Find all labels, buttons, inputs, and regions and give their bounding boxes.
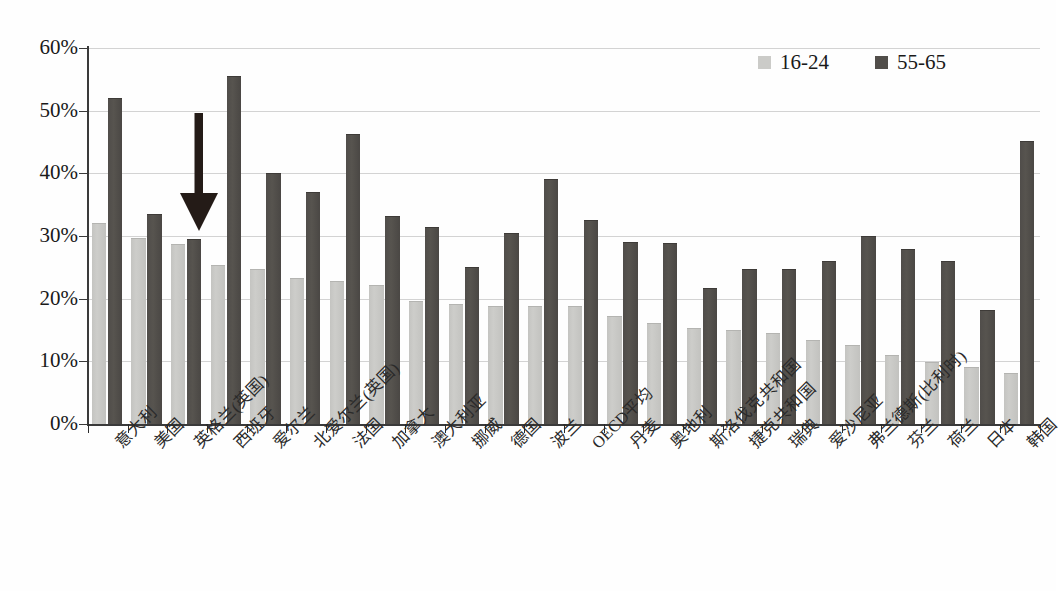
bar-16-24 xyxy=(131,238,146,424)
bar-group xyxy=(1004,48,1035,424)
bar-group xyxy=(171,48,202,424)
bar-group xyxy=(647,48,678,424)
bar-55-65 xyxy=(941,261,956,424)
bar-group xyxy=(607,48,638,424)
y-tick-label: 30% xyxy=(0,225,78,246)
bar-group xyxy=(449,48,480,424)
bar-group xyxy=(845,48,876,424)
plot-area xyxy=(88,48,1040,424)
bar-group xyxy=(409,48,440,424)
bar-55-65 xyxy=(544,179,559,424)
legend-label-55-65: 55-65 xyxy=(897,52,946,73)
bar-55-65 xyxy=(187,239,202,424)
bar-group xyxy=(726,48,757,424)
bar-16-24 xyxy=(528,306,543,424)
y-tick-label: 50% xyxy=(0,100,78,121)
bar-55-65 xyxy=(108,98,123,424)
bar-group xyxy=(488,48,519,424)
legend-item-old: 55-65 xyxy=(875,52,946,73)
y-tick-label: 20% xyxy=(0,288,78,309)
bar-group xyxy=(885,48,916,424)
y-axis-line xyxy=(87,46,89,426)
bar-55-65 xyxy=(663,243,678,424)
bar-16-24 xyxy=(488,306,503,424)
bar-16-24 xyxy=(92,223,107,424)
y-tick-label: 60% xyxy=(0,37,78,58)
bar-group xyxy=(687,48,718,424)
legend-label-16-24: 16-24 xyxy=(780,52,829,73)
legend-item-young: 16-24 xyxy=(758,52,829,73)
bar-55-65 xyxy=(822,261,837,424)
y-tick-label: 40% xyxy=(0,162,78,183)
bar-group xyxy=(92,48,123,424)
bar-55-65 xyxy=(1020,141,1035,424)
bar-55-65 xyxy=(584,220,599,424)
bar-55-65 xyxy=(346,134,361,424)
bar-group xyxy=(131,48,162,424)
bar-16-24 xyxy=(171,244,186,424)
bar-group xyxy=(528,48,559,424)
legend-swatch-icon-55-65 xyxy=(875,56,888,69)
bar-55-65 xyxy=(504,233,519,425)
bar-16-24 xyxy=(568,306,583,424)
bar-55-65 xyxy=(425,227,440,424)
legend-swatch-icon-16-24 xyxy=(758,56,771,69)
bar-group xyxy=(568,48,599,424)
chart-legend: 16-24 55-65 xyxy=(758,52,946,73)
bar-group xyxy=(211,48,242,424)
x-axis-category-labels: 意大利美国英格兰(英国)西班牙爱尔兰北爱尔兰(英国)法国加拿大澳大利亚挪威德国波… xyxy=(0,424,1056,591)
bar-55-65 xyxy=(385,216,400,424)
bar-55-65 xyxy=(306,192,321,424)
bar-16-24 xyxy=(647,323,662,424)
y-tick-label: 10% xyxy=(0,350,78,371)
bar-55-65 xyxy=(147,214,162,424)
bar-55-65 xyxy=(227,76,242,424)
bar-group xyxy=(330,48,361,424)
annotation-down-arrow-icon xyxy=(178,113,220,233)
bar-group xyxy=(964,48,995,424)
bar-group xyxy=(806,48,837,424)
bar-55-65 xyxy=(980,310,995,424)
bar-group xyxy=(290,48,321,424)
